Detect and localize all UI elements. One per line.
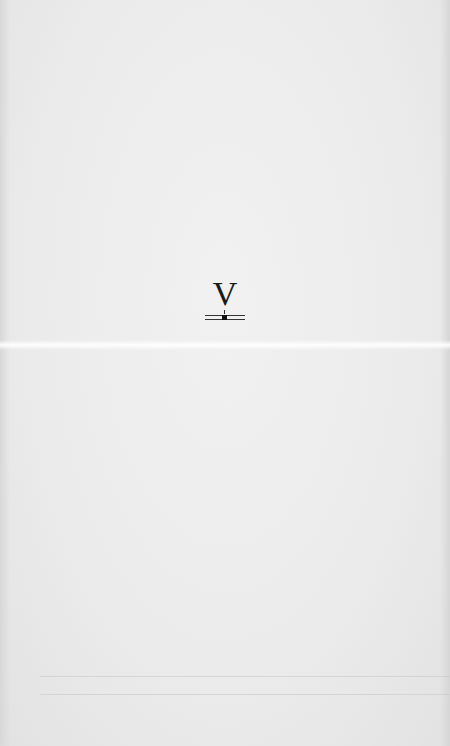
ornament-center-dot	[222, 315, 227, 320]
book-page: V	[0, 0, 450, 746]
scan-artifact-line	[40, 676, 450, 677]
section-heading: V	[0, 276, 450, 322]
page-right-shadow	[440, 0, 450, 746]
scan-artifact-band	[0, 340, 450, 350]
ornament-rule-icon	[205, 314, 245, 322]
ornament-tick	[224, 310, 225, 314]
section-numeral: V	[0, 276, 450, 312]
scan-artifact-line	[40, 694, 450, 695]
page-left-shadow	[0, 0, 10, 746]
